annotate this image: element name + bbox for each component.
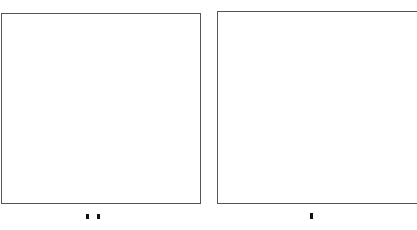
- left-caption: [80, 210, 140, 230]
- cut-off-text-fragment: [97, 214, 100, 219]
- cut-off-text-fragment: [86, 214, 89, 219]
- left-image-panel: [1, 13, 201, 204]
- right-caption: [260, 210, 390, 230]
- right-image-panel: [217, 11, 417, 204]
- cut-off-text-fragment: [310, 213, 313, 219]
